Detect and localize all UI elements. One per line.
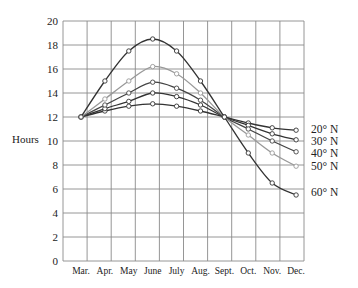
series-line <box>81 66 296 166</box>
data-point-marker <box>127 79 131 83</box>
x-axis-ticks: Mar.Apr.MayJuneJulyAug.Sept.Oct.Nov.Dec. <box>72 266 305 276</box>
legend-label: 20° N <box>311 123 339 135</box>
series-30n <box>79 91 298 142</box>
y-tick-label: 0 <box>53 255 59 267</box>
y-tick-label: 2 <box>53 231 59 243</box>
data-point-marker <box>246 127 250 131</box>
data-point-marker <box>198 109 202 113</box>
x-tick-label: Apr. <box>97 266 114 276</box>
data-point-marker <box>198 103 202 107</box>
data-point-marker <box>127 49 131 53</box>
y-tick-label: 12 <box>47 111 58 123</box>
data-point-marker <box>270 132 274 136</box>
data-point-marker <box>174 94 178 98</box>
y-tick-label: 6 <box>53 183 59 195</box>
data-point-marker <box>151 102 155 106</box>
y-tick-label: 18 <box>47 39 59 51</box>
series-line <box>81 93 296 140</box>
data-point-marker <box>151 80 155 84</box>
data-point-marker <box>127 91 131 95</box>
data-point-marker <box>103 103 107 107</box>
y-tick-label: 10 <box>47 135 59 147</box>
data-point-marker <box>79 115 83 119</box>
series-50n <box>79 64 298 168</box>
y-tick-label: 16 <box>47 63 59 75</box>
x-tick-label: Oct. <box>240 266 256 276</box>
data-point-marker <box>127 104 131 108</box>
data-point-marker <box>222 115 226 119</box>
data-point-marker <box>294 150 298 154</box>
x-tick-label: Aug. <box>191 266 210 276</box>
data-point-marker <box>270 139 274 143</box>
data-point-marker <box>151 64 155 68</box>
data-point-marker <box>246 133 250 137</box>
data-point-marker <box>294 138 298 142</box>
legend-label: 30° N <box>311 135 339 147</box>
x-tick-label: June <box>144 266 161 276</box>
y-tick-label: 20 <box>47 15 59 27</box>
data-point-marker <box>270 151 274 155</box>
data-point-marker <box>294 193 298 197</box>
data-point-marker <box>174 104 178 108</box>
x-tick-label: Dec. <box>287 266 305 276</box>
data-point-marker <box>294 164 298 168</box>
data-point-marker <box>198 91 202 95</box>
x-tick-label: Sept. <box>215 266 234 276</box>
data-point-marker <box>174 86 178 90</box>
data-point-marker <box>151 37 155 41</box>
y-axis-ticks: 02468101214161820 <box>47 15 59 267</box>
data-point-marker <box>103 97 107 101</box>
y-tick-label: 4 <box>53 207 59 219</box>
data-point-marker <box>198 98 202 102</box>
data-point-marker <box>103 79 107 83</box>
legend: 20° N30° N40° N50° N60° N <box>311 123 339 198</box>
data-point-marker <box>270 126 274 130</box>
y-tick-label: 8 <box>53 159 59 171</box>
legend-label: 50° N <box>311 160 339 172</box>
x-tick-label: Nov. <box>263 266 281 276</box>
x-tick-label: May <box>120 266 138 276</box>
data-point-marker <box>294 128 298 132</box>
data-point-marker <box>270 181 274 185</box>
data-point-marker <box>198 79 202 83</box>
x-tick-label: Mar. <box>72 266 90 276</box>
grid <box>63 21 304 261</box>
legend-label: 40° N <box>311 147 339 159</box>
legend-label: 60° N <box>311 186 339 198</box>
data-point-marker <box>127 99 131 103</box>
daylight-hours-chart: 02468101214161820 Mar.Apr.MayJuneJulyAug… <box>0 0 358 288</box>
y-axis-label: Hours <box>12 133 39 145</box>
data-point-marker <box>246 151 250 155</box>
data-point-marker <box>151 91 155 95</box>
x-tick-label: July <box>169 266 185 276</box>
data-point-marker <box>174 72 178 76</box>
y-tick-label: 14 <box>47 87 59 99</box>
data-point-marker <box>174 49 178 53</box>
